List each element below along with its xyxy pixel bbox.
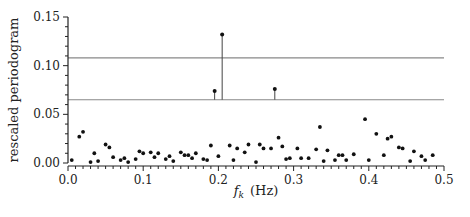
data-point xyxy=(190,156,194,160)
data-point xyxy=(186,153,190,157)
data-point xyxy=(423,158,427,162)
data-point xyxy=(258,143,262,147)
data-point xyxy=(318,125,322,129)
data-point xyxy=(322,159,326,163)
data-point xyxy=(81,130,85,134)
data-point xyxy=(153,155,157,159)
stem-point xyxy=(213,89,217,93)
data-point xyxy=(367,158,371,162)
data-point xyxy=(284,157,288,161)
threshold-lines xyxy=(68,58,444,100)
data-point xyxy=(123,156,127,160)
data-point xyxy=(217,154,221,158)
stem-point xyxy=(220,33,224,37)
x-tick-label: 0.5 xyxy=(434,173,453,187)
data-point xyxy=(344,158,348,162)
data-point xyxy=(326,148,330,152)
data-point xyxy=(280,145,284,149)
data-point xyxy=(352,152,356,156)
data-point xyxy=(111,155,115,159)
data-point xyxy=(412,149,416,153)
data-point xyxy=(333,158,337,162)
x-tick-label: 0.4 xyxy=(359,173,378,187)
data-point xyxy=(209,144,213,148)
stem-point xyxy=(273,87,277,91)
y-axis-label: rescaled periodogram xyxy=(6,18,21,163)
data-point xyxy=(119,158,123,162)
data-point xyxy=(168,154,172,158)
data-point xyxy=(408,159,412,163)
x-tick-label: 0.1 xyxy=(134,173,153,187)
data-point xyxy=(420,154,424,158)
data-point xyxy=(232,158,236,162)
y-tick-label: 0.05 xyxy=(33,107,60,121)
data-point xyxy=(262,147,266,151)
data-point xyxy=(299,156,303,160)
data-point xyxy=(104,143,108,147)
data-point xyxy=(288,156,292,160)
data-point xyxy=(247,143,251,147)
data-point xyxy=(201,157,205,161)
x-tick-label: 0.0 xyxy=(58,173,77,187)
data-point xyxy=(389,135,393,139)
y-tick-label: 0.00 xyxy=(33,156,60,170)
data-point xyxy=(92,151,96,155)
data-points xyxy=(70,117,435,164)
data-point xyxy=(141,151,145,155)
x-tick-label: 0.2 xyxy=(209,173,228,187)
data-point xyxy=(156,151,160,155)
data-point xyxy=(70,158,74,162)
data-point xyxy=(243,150,247,154)
data-point xyxy=(194,151,198,155)
data-point xyxy=(89,160,93,164)
data-point xyxy=(397,146,401,150)
x-axis-label: fk(Hz) xyxy=(233,183,279,200)
data-point xyxy=(235,147,239,151)
data-point xyxy=(269,147,273,151)
data-point xyxy=(254,160,258,164)
data-point xyxy=(228,144,232,148)
data-point xyxy=(307,156,311,160)
data-point xyxy=(401,147,405,151)
data-point xyxy=(107,146,111,150)
data-point xyxy=(179,150,183,154)
data-point xyxy=(164,157,168,161)
data-point xyxy=(386,137,390,141)
y-tick-label: 0.15 xyxy=(33,10,60,24)
data-point xyxy=(149,150,153,154)
data-point xyxy=(382,153,386,157)
x-tick-label: 0.3 xyxy=(284,173,303,187)
data-point xyxy=(295,147,299,151)
data-point xyxy=(205,158,209,162)
data-point xyxy=(374,132,378,136)
data-point xyxy=(134,157,138,161)
data-point xyxy=(126,160,130,164)
data-point xyxy=(277,136,281,140)
data-point xyxy=(337,153,341,157)
data-point xyxy=(138,149,142,153)
y-axis: 0.000.050.100.15 xyxy=(33,10,68,170)
data-point xyxy=(183,153,187,157)
data-point xyxy=(171,159,175,163)
data-point xyxy=(96,159,100,163)
data-point xyxy=(341,153,345,157)
periodogram-chart: 0.000.050.100.15 0.00.10.20.30.40.5 fk(H… xyxy=(0,0,470,217)
data-point xyxy=(314,147,318,151)
y-tick-label: 0.10 xyxy=(33,59,60,73)
data-point xyxy=(363,117,367,121)
data-point xyxy=(77,135,81,139)
data-point xyxy=(431,153,435,157)
stem-lines xyxy=(213,33,277,100)
